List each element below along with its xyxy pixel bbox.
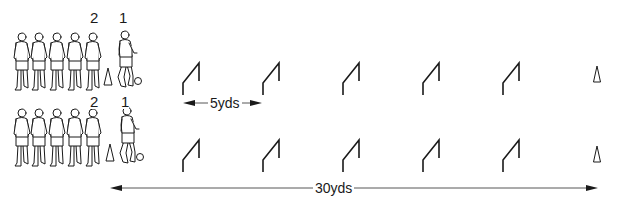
top-start-cone-icon <box>104 68 112 85</box>
bottom-player-label-2: 2 <box>90 94 98 109</box>
top-player-label-2: 2 <box>90 10 98 25</box>
top-hurdle-3 <box>343 63 359 95</box>
top-end-cone-icon <box>594 66 601 82</box>
bottom-start-cone-icon <box>106 144 114 161</box>
bottom-hurdle-1 <box>183 140 199 172</box>
top-waiting-player-1 <box>14 33 30 90</box>
top-hurdle-5 <box>503 63 519 95</box>
bottom-hurdle-3 <box>343 140 359 172</box>
bottom-hurdle-4 <box>423 140 439 172</box>
top-hurdle-2 <box>263 63 279 95</box>
bottom-waiting-player-1 <box>14 109 30 166</box>
top-ball-icon <box>135 78 142 85</box>
top-hurdle-4 <box>423 63 439 95</box>
top-waiting-player-4 <box>67 33 83 90</box>
bottom-waiting-player-4 <box>67 109 83 166</box>
top-hurdle-1 <box>183 63 199 95</box>
spacing-arrow-arrowhead-right-icon <box>250 100 262 106</box>
bottom-waiting-player-5 <box>85 109 101 166</box>
bottom-hurdle-2 <box>263 140 279 172</box>
top-player-label-1: 1 <box>119 10 127 25</box>
total-distance-arrow-arrowhead-right-icon <box>586 185 598 191</box>
spacing-label: 5yds <box>208 96 242 110</box>
bottom-hurdle-5 <box>503 140 519 172</box>
top-waiting-player-5 <box>85 33 101 90</box>
drill-diagram: 2 1 2 1 5yds 30yds <box>0 0 617 208</box>
bottom-waiting-player-2 <box>31 109 47 166</box>
top-active-player-1 <box>118 31 137 87</box>
bottom-active-player-1 <box>120 107 139 163</box>
top-waiting-player-2 <box>31 33 47 90</box>
bottom-waiting-player-3 <box>49 109 65 166</box>
top-waiting-player-3 <box>49 33 65 90</box>
bottom-end-cone-icon <box>594 146 601 162</box>
bottom-player-label-1: 1 <box>121 94 129 109</box>
spacing-arrow-arrowhead-left-icon <box>183 100 195 106</box>
total-distance-label: 30yds <box>313 181 354 195</box>
bottom-ball-icon <box>137 154 144 161</box>
total-distance-arrow-arrowhead-left-icon <box>110 185 122 191</box>
